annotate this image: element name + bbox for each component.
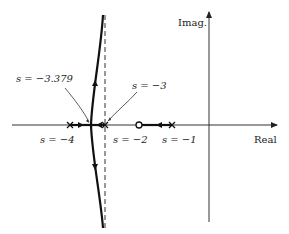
imag-axis-label: Imag. xyxy=(178,17,207,28)
root-locus-diagram: Real Imag. s = −3.379 s = −3 s = −4 s = … xyxy=(0,0,289,234)
locus-branch-complex xyxy=(91,15,103,228)
leader-breakaway xyxy=(65,88,89,122)
arrow-left-icon xyxy=(96,122,102,128)
breakaway-label: s = −3.379 xyxy=(16,73,74,84)
arrow-right-icon xyxy=(78,122,84,128)
leader-arrowhead-icon xyxy=(108,117,111,121)
arrow-down-icon xyxy=(92,164,98,170)
real-axis-label: Real xyxy=(254,134,277,145)
leader-pole-s-3 xyxy=(108,92,137,121)
pole-label-s-4: s = −4 xyxy=(40,134,75,145)
zero-marker-s-2 xyxy=(136,122,142,128)
pole-label-s-3: s = −3 xyxy=(132,80,167,91)
arrow-up-icon xyxy=(92,80,98,86)
zero-label-s-2: s = −2 xyxy=(113,134,148,145)
pole-label-s-1: s = −1 xyxy=(162,134,197,145)
arrow-left-icon xyxy=(156,122,162,128)
